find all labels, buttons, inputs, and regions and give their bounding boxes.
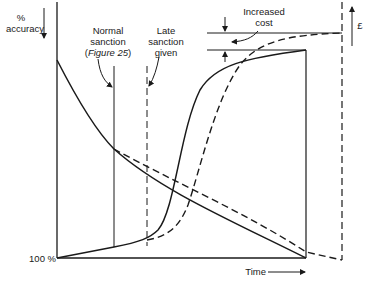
increased-cost-line2: cost bbox=[236, 17, 292, 28]
cost-curve-normal bbox=[57, 50, 306, 258]
late-sanction-pointer-icon bbox=[149, 57, 159, 86]
normal-sanction-pointer-icon bbox=[98, 59, 112, 87]
normal-sanction-line3: (Figure 25) bbox=[78, 47, 138, 58]
accuracy-label: % accuracy bbox=[6, 12, 36, 34]
late-sanction-line3: given bbox=[144, 47, 188, 58]
paren-close: ) bbox=[128, 47, 131, 58]
normal-sanction-label: Normal sanction (Figure 25) bbox=[78, 25, 138, 58]
cost-curve-late bbox=[147, 33, 342, 240]
cost-axis-label: £ bbox=[355, 20, 365, 31]
increased-cost-label: Increased cost bbox=[236, 6, 292, 28]
late-sanction-label: Late sanction given bbox=[144, 25, 188, 58]
time-axis-label: Time bbox=[240, 266, 266, 277]
increased-cost-line1: Increased bbox=[236, 6, 292, 17]
accuracy-label-percent: % bbox=[6, 12, 36, 23]
accuracy-label-text: accuracy bbox=[6, 23, 36, 34]
late-sanction-line2: sanction bbox=[144, 36, 188, 47]
origin-label: 100 % bbox=[24, 253, 56, 264]
figure-reference: Figure 25 bbox=[88, 47, 128, 58]
normal-sanction-line2: sanction bbox=[78, 36, 138, 47]
late-sanction-line1: Late bbox=[144, 25, 188, 36]
accuracy-curve-normal bbox=[57, 60, 306, 258]
accuracy-curve-late bbox=[114, 149, 342, 260]
normal-sanction-line1: Normal bbox=[78, 25, 138, 36]
